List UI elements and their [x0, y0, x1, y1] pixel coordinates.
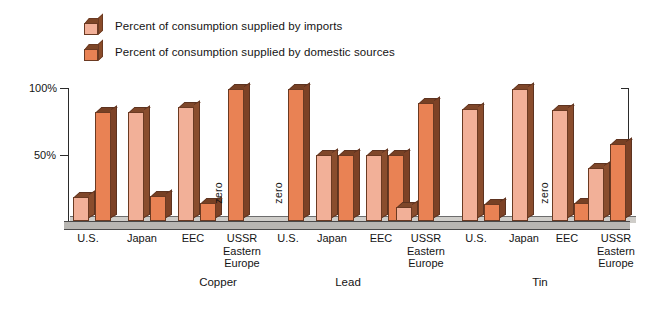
zero-label-lead-us-imports: zero [272, 182, 284, 204]
group-label-tin: Tin [510, 276, 570, 288]
bar-copper-ussr-domestic[interactable] [228, 89, 244, 221]
y-axis-tick-right-100 [621, 88, 629, 89]
bar-tin-ussr-domestic[interactable] [610, 144, 626, 221]
cat-label-tin-us: U.S. [450, 232, 502, 245]
bar-copper-eec-imports[interactable] [178, 107, 194, 221]
chart-floor [64, 221, 630, 230]
group-label-lead: Lead [318, 276, 378, 288]
bar-chart: 100% 50% zero zero zero U.S. Japan EEC U… [0, 0, 651, 309]
bar-copper-japan-imports[interactable] [128, 112, 144, 221]
cat-label-lead-ussr: USSR Eastern Europe [396, 232, 456, 270]
cat-label-lead-japan: Japan [306, 232, 358, 245]
cat-label-tin-eec: EEC [542, 232, 592, 245]
y-axis-tick-100 [60, 88, 69, 89]
zero-label-copper-ussr-imports: zero [212, 182, 224, 204]
bar-copper-us-imports[interactable] [73, 197, 89, 221]
cat-label-copper-japan: Japan [116, 232, 168, 245]
y-axis-tick-50 [60, 155, 69, 156]
bar-copper-eec-domestic[interactable] [200, 203, 216, 221]
bar-lead-ussr-domestic[interactable] [418, 103, 434, 221]
cat-label-copper-us: U.S. [62, 232, 114, 245]
group-label-copper: Copper [188, 276, 248, 288]
bar-lead-us-domestic[interactable] [288, 89, 304, 221]
bar-copper-japan-domestic[interactable] [150, 196, 166, 221]
bar-lead-ussr-imports[interactable] [396, 207, 412, 221]
cat-label-copper-eec: EEC [168, 232, 218, 245]
bar-tin-us-imports[interactable] [462, 109, 478, 221]
zero-label-tin-japan-domestic: zero [538, 182, 550, 204]
y-tick-label-50: 50% [34, 149, 56, 161]
bar-lead-eec-imports[interactable] [366, 155, 382, 221]
y-tick-label-100: 100% [29, 82, 57, 94]
bar-tin-us-domestic[interactable] [484, 204, 500, 221]
bar-lead-japan-domestic[interactable] [338, 155, 354, 221]
bar-tin-ussr-imports[interactable] [588, 168, 604, 221]
bar-tin-japan-imports[interactable] [512, 89, 528, 221]
bar-tin-eec-imports[interactable] [552, 110, 568, 221]
bar-copper-us-domestic[interactable] [95, 112, 111, 221]
bar-lead-japan-imports[interactable] [316, 155, 332, 221]
cat-label-tin-ussr: USSR Eastern Europe [586, 232, 646, 270]
